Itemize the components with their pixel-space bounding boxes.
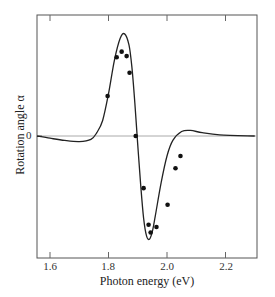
plot-area (0, 0, 275, 297)
x-tick-label: 2.2 (219, 260, 233, 272)
data-point (148, 230, 153, 235)
data-point (127, 70, 132, 75)
x-tick-label: 1.8 (101, 260, 115, 272)
data-point (154, 225, 159, 230)
data-points (105, 49, 182, 235)
data-point (114, 55, 119, 60)
x-tick-label: 2.0 (160, 260, 174, 272)
x-axis-label: Photon energy (eV) (100, 274, 194, 289)
data-point (141, 186, 146, 191)
data-point (119, 49, 124, 54)
data-point (165, 203, 170, 208)
x-tick-label: 1.6 (43, 260, 57, 272)
data-point (124, 54, 129, 59)
y-tick-zero: 0 (26, 129, 32, 141)
data-point (173, 166, 178, 171)
data-point (146, 223, 151, 228)
data-point (178, 154, 183, 159)
data-point (105, 94, 110, 99)
data-point (133, 134, 138, 139)
